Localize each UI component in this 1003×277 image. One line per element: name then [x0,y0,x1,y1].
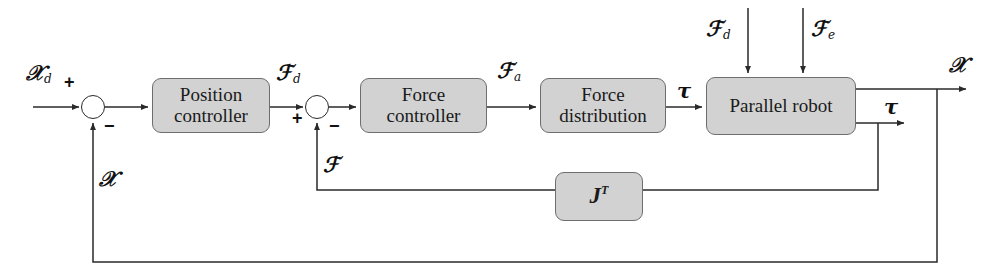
block-jacobian-transpose[interactable]: JT [555,172,643,221]
block-parallel-robot[interactable]: Parallel robot [706,77,856,135]
label-joint-torque-mid: τ [677,78,691,103]
label-pose-output: 𝒳 [949,52,967,77]
label-measured-wrench-feedback: ℱ [323,152,340,177]
sign-minus-force-sum: − [329,116,340,137]
block-position-controller[interactable]: Positioncontroller [152,78,270,133]
sign-minus-position-sum: − [104,116,115,137]
label-torque-output: τ [884,94,898,119]
summing-junction-force-error[interactable] [305,95,329,119]
wire-wrench-feedback-to-sum2 [317,123,555,190]
label-desired-pose-input: 𝒳d [26,60,52,86]
jacobian-transpose-label: JT [586,184,613,209]
summing-junction-position-error[interactable] [81,95,105,119]
sign-plus-position-sum: + [64,72,75,93]
label-desired-wrench: ℱd [276,60,301,86]
label-disturbance-wrench: ℱd [706,16,731,42]
sign-plus-force-sum: + [292,108,303,129]
position-controller-label: Positioncontroller [170,85,252,126]
label-actuation-wrench: ℱa [497,58,521,84]
block-diagram: Positioncontroller Forcecontroller Force… [0,0,1003,277]
label-pose-feedback: 𝒳 [99,166,117,191]
block-force-distribution[interactable]: Forcedistribution [540,78,666,133]
label-environment-wrench: ℱe [811,16,835,42]
force-controller-label: Forcecontroller [383,85,465,126]
signal-wires [0,0,1003,277]
block-force-controller[interactable]: Forcecontroller [360,78,487,133]
force-distribution-label: Forcedistribution [555,85,651,126]
parallel-robot-label: Parallel robot [726,96,837,117]
